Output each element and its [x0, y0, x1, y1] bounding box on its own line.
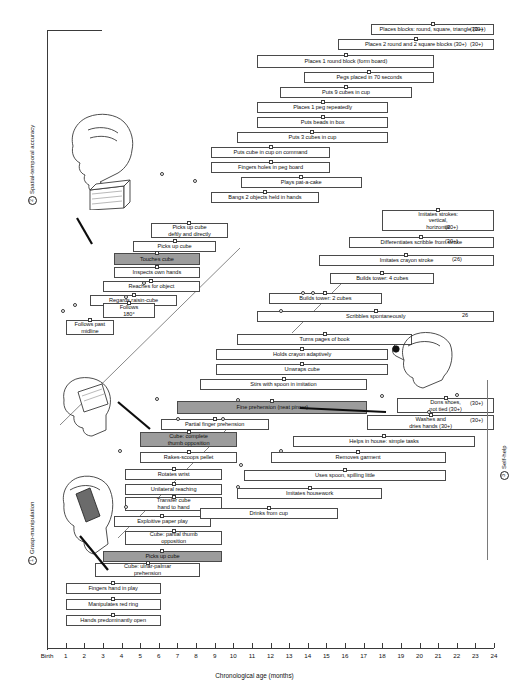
developmental-milestones-chart: 2Spatial-temporal accuracy 1Grasp-manipu… — [0, 0, 509, 692]
highlight-pointer-lines — [0, 0, 509, 692]
